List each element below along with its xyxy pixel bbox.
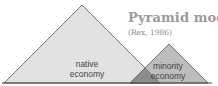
native-label-line2: economy — [62, 70, 112, 80]
diagram-citation: (Rex, 1986) — [128, 28, 172, 37]
diagram-title: Pyramid model — [128, 10, 218, 25]
pyramid-model-diagram: Pyramid model (Rex, 1986) native economy… — [0, 0, 218, 86]
minority-economy-label: minority economy — [143, 62, 193, 81]
minority-label-line2: economy — [143, 72, 193, 82]
native-economy-label: native economy — [62, 60, 112, 79]
